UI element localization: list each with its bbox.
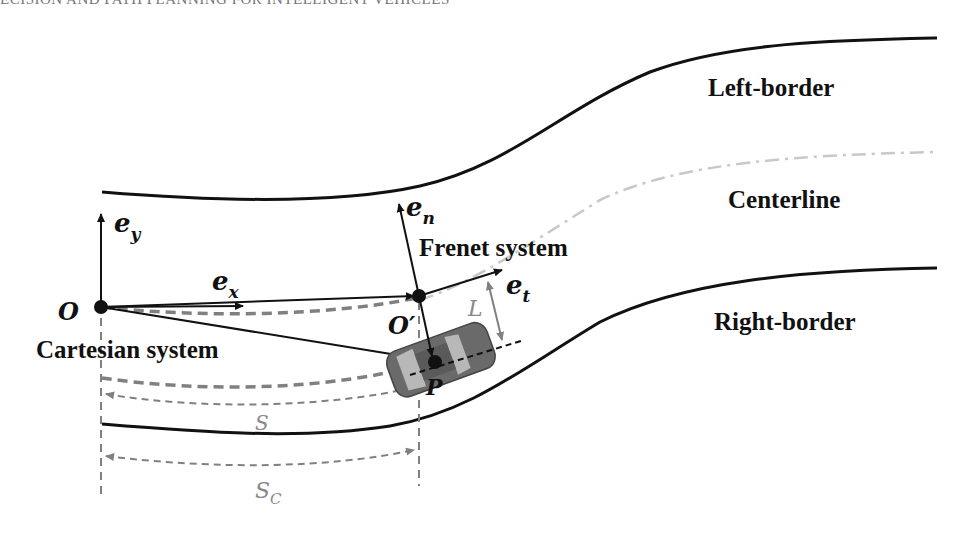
symbol-oprime: O′ [388, 311, 416, 340]
symbol-l: L [467, 296, 483, 321]
label-cartesian-system: Cartesian system [36, 336, 219, 363]
label-left-border: Left-border [708, 74, 834, 101]
vehicle-trajectory [102, 362, 430, 387]
point-o [94, 300, 108, 314]
frenet-cartesian-diagram: Left-border Centerline Right-border Fren… [0, 0, 957, 539]
symbol-ex: ex [212, 266, 240, 302]
arc-s-arrow [106, 386, 420, 404]
symbol-sc: SC [255, 478, 282, 508]
lateral-offset-arrow [488, 282, 502, 340]
symbol-o: O [58, 297, 79, 326]
symbol-ey: ey [114, 208, 142, 244]
point-oprime [412, 289, 426, 303]
arc-sc-arrow [106, 450, 414, 465]
label-centerline: Centerline [728, 186, 840, 213]
label-right-border: Right-border [714, 308, 856, 335]
symbol-p: P [425, 374, 444, 400]
centerline [420, 152, 937, 300]
symbol-en: en [406, 192, 435, 228]
label-frenet-system: Frenet system [419, 234, 568, 261]
left-border-line [102, 38, 937, 200]
point-p [428, 355, 442, 369]
symbol-s: S [255, 411, 269, 435]
symbol-et: et [506, 270, 531, 306]
